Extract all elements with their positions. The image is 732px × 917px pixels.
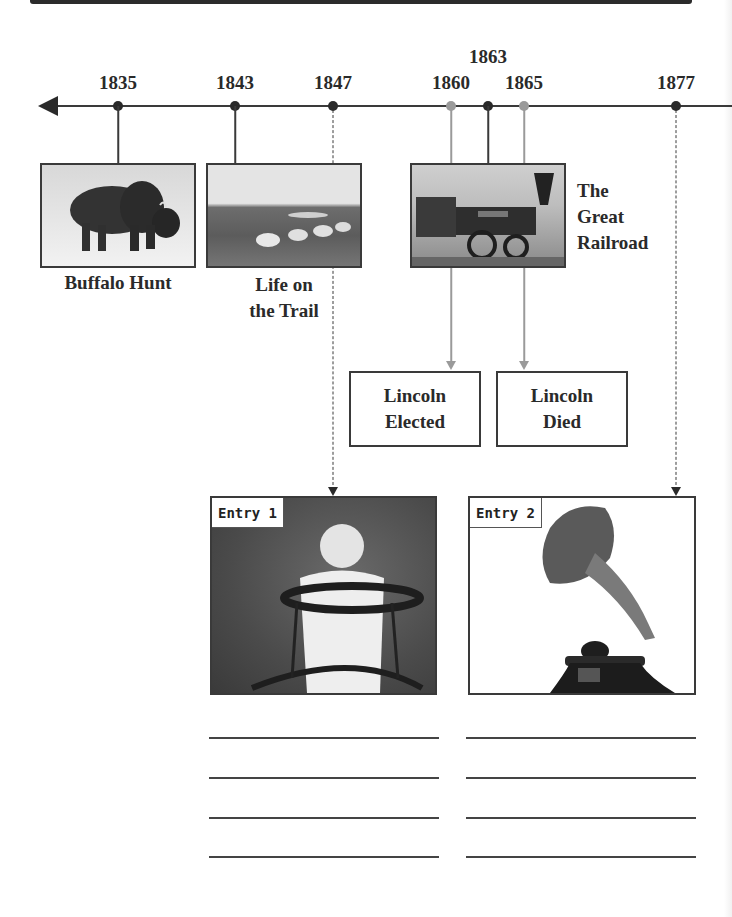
wagon-trail-photo bbox=[206, 163, 362, 268]
arrow-left-icon bbox=[38, 96, 58, 116]
locomotive-illustration bbox=[412, 165, 564, 266]
entry-1-writing-line[interactable] bbox=[209, 817, 439, 819]
entry-2-writing-line[interactable] bbox=[466, 856, 696, 858]
year-label-1865: 1865 bbox=[505, 72, 543, 94]
buffalo-photo bbox=[40, 163, 196, 268]
connector-1843 bbox=[234, 106, 236, 164]
connector-1835 bbox=[117, 106, 119, 164]
lincoln-elected-line2: Elected bbox=[384, 409, 446, 435]
covered-wagons-illustration bbox=[208, 165, 360, 266]
entry-2-writing-line[interactable] bbox=[466, 777, 696, 779]
year-label-1877: 1877 bbox=[657, 72, 695, 94]
connector-1860-bottom bbox=[450, 268, 452, 362]
dashed-connector-1877 bbox=[676, 110, 677, 490]
entry-2-writing-line[interactable] bbox=[466, 817, 696, 819]
year-label-1863: 1863 bbox=[469, 46, 507, 68]
year-label-1860: 1860 bbox=[432, 72, 470, 94]
arrow-down-icon bbox=[328, 487, 338, 496]
entry-1-writing-line[interactable] bbox=[209, 777, 439, 779]
buffalo-hunt-caption: Buffalo Hunt bbox=[40, 270, 196, 296]
arrow-down-icon bbox=[519, 361, 529, 370]
year-label-1835: 1835 bbox=[99, 72, 137, 94]
page-edge-shade bbox=[724, 0, 732, 917]
entry-2-phonograph-photo: Entry 2 bbox=[468, 496, 696, 695]
trail-caption-line1: Life on bbox=[206, 272, 362, 298]
arrow-down-icon bbox=[446, 361, 456, 370]
entry-1-writing-line[interactable] bbox=[209, 737, 439, 739]
connector-1860-top bbox=[450, 106, 452, 164]
entry-1-baby-photo: Entry 1 bbox=[210, 496, 437, 695]
arrow-down-icon bbox=[671, 487, 681, 496]
year-label-1843: 1843 bbox=[216, 72, 254, 94]
connector-1863 bbox=[487, 106, 489, 164]
entry-1-label: Entry 1 bbox=[212, 498, 284, 528]
buffalo-illustration bbox=[42, 165, 194, 266]
locomotive-photo bbox=[410, 163, 566, 268]
trail-caption-line2: the Trail bbox=[206, 298, 362, 324]
year-label-1847: 1847 bbox=[314, 72, 352, 94]
lincoln-died-line1: Lincoln bbox=[531, 383, 593, 409]
railroad-caption-line3: Railroad bbox=[577, 230, 648, 256]
connector-1865-bottom bbox=[523, 268, 525, 362]
timeline-axis bbox=[52, 105, 732, 107]
entry-2-writing-line[interactable] bbox=[466, 737, 696, 739]
lincoln-elected-box: Lincoln Elected bbox=[349, 371, 481, 447]
entry-2-label: Entry 2 bbox=[470, 498, 542, 528]
lincoln-died-line2: Died bbox=[531, 409, 593, 435]
railroad-caption-line2: Great bbox=[577, 204, 624, 230]
entry-1-writing-line[interactable] bbox=[209, 856, 439, 858]
connector-1865-top bbox=[523, 106, 525, 164]
page-top-border bbox=[30, 0, 692, 4]
lincoln-elected-line1: Lincoln bbox=[384, 383, 446, 409]
railroad-caption-line1: The bbox=[577, 178, 609, 204]
lincoln-died-box: Lincoln Died bbox=[496, 371, 628, 447]
